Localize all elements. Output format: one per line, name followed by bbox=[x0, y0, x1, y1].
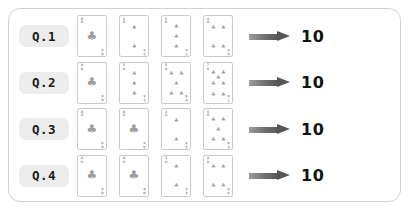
arrow-shaft bbox=[249, 127, 279, 133]
club-suit-icon: ♣ bbox=[129, 170, 140, 181]
question-label-badge: Q.2 bbox=[19, 72, 69, 94]
club-suit-icon: ♣ bbox=[87, 77, 98, 88]
playing-card[interactable]: A♣A♣♣ bbox=[77, 62, 107, 104]
card-rank: 5 bbox=[184, 98, 189, 102]
club-suit-icon: ♣ bbox=[169, 91, 173, 95]
card-pip-field: ♣♣♣ bbox=[167, 21, 185, 51]
playing-card[interactable]: 2♣2♣♣♣ bbox=[161, 108, 191, 150]
club-suit-icon: ♣ bbox=[174, 34, 178, 38]
club-suit-icon: ♣ bbox=[87, 170, 98, 181]
club-suit-icon: ♣ bbox=[174, 164, 178, 168]
playing-card[interactable]: 2♣2♣♣♣ bbox=[161, 155, 191, 197]
club-suit-icon: ♣ bbox=[179, 71, 183, 75]
card-pip-field: ♣ bbox=[83, 21, 101, 51]
club-suit-icon: ♣ bbox=[211, 81, 215, 85]
right-arrow-icon bbox=[249, 124, 293, 135]
club-suit-icon: ♣ bbox=[221, 81, 225, 85]
card-pip-field: ♣ bbox=[83, 161, 101, 191]
arrow-container bbox=[249, 170, 301, 181]
club-suit-icon: ♣ bbox=[211, 183, 215, 187]
club-suit-icon: ♣ bbox=[174, 44, 178, 48]
card-pip-field: ♣ bbox=[83, 68, 101, 98]
club-suit-icon: ♣ bbox=[221, 137, 225, 141]
playing-card[interactable]: 2♣2♣♣♣ bbox=[119, 15, 149, 57]
card-rank: A bbox=[100, 98, 105, 102]
playing-card[interactable]: A♣A♣♣ bbox=[77, 15, 107, 57]
arrow-container bbox=[249, 77, 301, 88]
question-label-badge: Q.4 bbox=[19, 165, 69, 187]
arrow-container bbox=[249, 124, 301, 135]
club-suit-icon: ♣ bbox=[211, 25, 215, 29]
question-row: Q.2A♣A♣♣3♣3♣♣♣♣5♣5♣♣♣♣♣♣7♣7♣♣♣♣♣♣♣♣10 bbox=[9, 61, 400, 105]
card-pip-field: ♣♣ bbox=[125, 21, 143, 51]
right-arrow-icon bbox=[249, 170, 293, 181]
club-suit-icon: ♣ bbox=[221, 70, 225, 74]
card-pip-field: ♣♣ bbox=[167, 114, 185, 144]
playing-card[interactable]: 7♣7♣♣♣♣♣♣♣♣ bbox=[203, 62, 233, 104]
club-suit-icon: ♣ bbox=[132, 71, 136, 75]
card-pip-field: ♣♣♣♣ bbox=[209, 161, 227, 191]
playing-card[interactable]: A♣A♣♣ bbox=[119, 108, 149, 150]
arrow-container bbox=[249, 31, 301, 42]
club-suit-icon: ♣ bbox=[179, 91, 183, 95]
card-rank: 4 bbox=[226, 191, 231, 195]
club-suit-icon: ♣ bbox=[221, 25, 225, 29]
question-row: Q.4A♣A♣♣A♣A♣♣2♣2♣♣♣4♣4♣♣♣♣♣10 bbox=[9, 154, 400, 198]
playing-card[interactable]: 4♣4♣♣♣♣♣ bbox=[203, 15, 233, 57]
playing-card[interactable]: 3♣3♣♣♣♣ bbox=[161, 15, 191, 57]
playing-card[interactable]: A♣A♣♣ bbox=[77, 155, 107, 197]
club-suit-icon: ♣ bbox=[132, 91, 136, 95]
club-suit-icon: ♣ bbox=[221, 183, 225, 187]
card-pip-field: ♣♣♣ bbox=[125, 68, 143, 98]
card-rank: A bbox=[142, 191, 147, 195]
right-arrow-icon bbox=[249, 77, 293, 88]
card-pip-field: ♣♣♣♣♣ bbox=[167, 68, 185, 98]
question-row: Q.1A♣A♣♣2♣2♣♣♣3♣3♣♣♣♣4♣4♣♣♣♣♣10 bbox=[9, 14, 400, 58]
card-pip-field: ♣♣♣♣♣ bbox=[209, 114, 227, 144]
playing-card[interactable]: A♣A♣♣ bbox=[77, 108, 107, 150]
card-rank: 7 bbox=[226, 98, 231, 102]
club-suit-icon: ♣ bbox=[211, 164, 215, 168]
club-suit-icon: ♣ bbox=[221, 44, 225, 48]
club-suit-icon: ♣ bbox=[216, 127, 220, 131]
card-pip-field: ♣ bbox=[83, 114, 101, 144]
question-label-badge: Q.3 bbox=[19, 118, 69, 140]
club-suit-icon: ♣ bbox=[211, 92, 215, 96]
card-group: A♣A♣♣A♣A♣♣2♣2♣♣♣4♣4♣♣♣♣♣ bbox=[77, 155, 245, 197]
card-puzzle-panel: Q.1A♣A♣♣2♣2♣♣♣3♣3♣♣♣♣4♣4♣♣♣♣♣10Q.2A♣A♣♣3… bbox=[8, 8, 401, 202]
playing-card[interactable]: 4♣4♣♣♣♣♣ bbox=[203, 155, 233, 197]
club-suit-icon: ♣ bbox=[174, 24, 178, 28]
club-suit-icon: ♣ bbox=[174, 81, 178, 85]
card-pip-field: ♣ bbox=[125, 161, 143, 191]
arrow-head bbox=[277, 77, 290, 87]
arrow-head bbox=[277, 124, 290, 134]
club-suit-icon: ♣ bbox=[221, 92, 225, 96]
club-suit-icon: ♣ bbox=[129, 124, 140, 135]
arrow-shaft bbox=[249, 80, 279, 86]
arrow-head bbox=[277, 170, 290, 180]
club-suit-icon: ♣ bbox=[211, 117, 215, 121]
club-suit-icon: ♣ bbox=[132, 81, 136, 85]
playing-card[interactable]: A♣A♣♣ bbox=[119, 155, 149, 197]
card-pip-field: ♣♣♣♣ bbox=[209, 21, 227, 51]
playing-card[interactable]: 5♣5♣♣♣♣♣♣ bbox=[161, 62, 191, 104]
club-suit-icon: ♣ bbox=[211, 70, 215, 74]
playing-card[interactable]: 3♣3♣♣♣♣ bbox=[119, 62, 149, 104]
club-suit-icon: ♣ bbox=[221, 117, 225, 121]
card-group: A♣A♣♣3♣3♣♣♣♣5♣5♣♣♣♣♣♣7♣7♣♣♣♣♣♣♣♣ bbox=[77, 62, 245, 104]
answer-value: 10 bbox=[301, 27, 324, 46]
club-suit-icon: ♣ bbox=[174, 118, 178, 122]
card-rank: 2 bbox=[184, 191, 189, 195]
question-label-badge: Q.1 bbox=[19, 25, 69, 47]
question-row: Q.3A♣A♣♣A♣A♣♣2♣2♣♣♣5♣5♣♣♣♣♣♣10 bbox=[9, 107, 400, 151]
club-suit-icon: ♣ bbox=[174, 183, 178, 187]
card-rank: A bbox=[100, 191, 105, 195]
card-group: A♣A♣♣A♣A♣♣2♣2♣♣♣5♣5♣♣♣♣♣♣ bbox=[77, 108, 245, 150]
arrow-shaft bbox=[249, 34, 279, 40]
answer-value: 10 bbox=[301, 73, 324, 92]
club-suit-icon: ♣ bbox=[216, 75, 220, 79]
playing-card[interactable]: 5♣5♣♣♣♣♣♣ bbox=[203, 108, 233, 150]
arrow-head bbox=[277, 31, 290, 41]
card-pip-field: ♣♣♣♣♣♣♣ bbox=[209, 68, 227, 98]
club-suit-icon: ♣ bbox=[87, 124, 98, 135]
